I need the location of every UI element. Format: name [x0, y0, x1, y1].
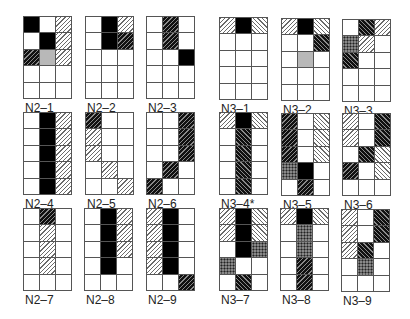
grid-cell-empty	[343, 147, 359, 163]
grid-cell-empty	[56, 275, 72, 291]
grid-cell-light-hatch-forward	[56, 33, 72, 49]
grid-cell-gray	[40, 50, 56, 66]
pattern-panel: N2–9	[146, 208, 196, 307]
grid-cell-empty	[252, 129, 268, 145]
grid-cell-gray	[298, 52, 314, 68]
grid-cell-empty	[117, 258, 133, 274]
grid-cell-dark-hatch-forward	[343, 163, 359, 179]
grid-cell-black	[163, 225, 179, 241]
grid-cell-empty	[343, 180, 359, 196]
grid-cell-light-hatch-back	[252, 225, 268, 241]
grid-cell-empty	[24, 83, 40, 99]
grid-cell-empty	[24, 162, 40, 178]
grid-cell-black	[40, 162, 56, 178]
grid-cell-light-hatch-forward	[56, 146, 72, 162]
grid-cell-empty	[236, 84, 252, 100]
grid-cell-empty	[220, 242, 236, 258]
grid-cell-light-hatch-back	[313, 209, 329, 225]
grid-cell-empty	[375, 86, 391, 102]
grid-cell-empty	[314, 85, 330, 101]
grid-cell-empty	[163, 129, 179, 145]
grid-cell-light-hatch-forward	[220, 113, 236, 129]
grid-cell-light-hatch-forward	[56, 162, 72, 178]
grid-cell-empty	[298, 114, 314, 130]
grid-cell-empty	[102, 113, 118, 129]
pattern-panel: N3–7	[219, 208, 269, 307]
pattern-panel: N2–1	[23, 16, 73, 115]
grid-cell-empty	[374, 276, 390, 292]
grid-cell-empty	[298, 147, 314, 163]
pattern-panel: N2–7	[23, 208, 73, 307]
pattern-grid	[342, 19, 391, 102]
grid-cell-empty	[359, 130, 375, 146]
pattern-grid	[23, 16, 72, 99]
grid-cell-empty	[374, 243, 390, 259]
grid-cell-dotted	[282, 163, 298, 179]
grid-cell-light-hatch-forward	[359, 36, 375, 52]
grid-cell-empty	[282, 180, 298, 196]
grid-cell-empty	[102, 146, 118, 162]
grid-cell-empty	[24, 209, 40, 225]
grid-cell-dark-hatch-back	[374, 210, 390, 226]
pattern-grid	[281, 113, 330, 196]
grid-cell-light-hatch-forward	[343, 130, 359, 146]
grid-cell-empty	[179, 242, 195, 258]
grid-cell-empty	[314, 52, 330, 68]
grid-cell-light-hatch-forward	[56, 179, 72, 195]
grid-cell-empty	[24, 225, 40, 241]
grid-cell-empty	[282, 52, 298, 68]
grid-cell-dark-hatch-forward	[163, 33, 179, 49]
grid-cell-empty	[252, 34, 268, 50]
grid-cell-empty	[163, 275, 179, 291]
grid-cell-black	[101, 209, 117, 225]
grid-cell-dark-hatch-forward	[298, 180, 314, 196]
grid-cell-black	[40, 179, 56, 195]
grid-cell-empty	[179, 225, 195, 241]
pattern-panel: N2–5	[85, 112, 135, 211]
grid-cell-empty	[147, 146, 163, 162]
grid-cell-light-hatch-forward	[102, 162, 118, 178]
grid-cell-empty	[118, 146, 134, 162]
grid-cell-empty	[252, 67, 268, 83]
grid-cell-empty	[24, 129, 40, 145]
grid-cell-empty	[24, 146, 40, 162]
grid-cell-empty	[343, 86, 359, 102]
grid-cell-light-hatch-forward	[86, 129, 102, 145]
grid-cell-light-hatch-forward	[343, 114, 359, 130]
grid-cell-empty	[313, 275, 329, 291]
grid-cell-empty	[343, 20, 359, 36]
grid-cell-light-hatch-forward	[56, 50, 72, 66]
grid-cell-light-hatch-back	[314, 19, 330, 35]
panel-label: N3–7	[219, 293, 269, 307]
grid-cell-empty	[118, 113, 134, 129]
grid-cell-black	[40, 146, 56, 162]
grid-cell-black	[102, 17, 118, 33]
grid-cell-dotted	[297, 225, 313, 241]
grid-cell-empty	[86, 66, 102, 82]
grid-cell-light-hatch-back	[252, 209, 268, 225]
grid-cell-empty	[375, 53, 391, 69]
grid-cell-light-hatch-back	[314, 114, 330, 130]
grid-cell-dotted	[252, 242, 268, 258]
grid-cell-empty	[358, 276, 374, 292]
grid-cell-empty	[56, 258, 72, 274]
pattern-grid	[219, 112, 268, 195]
grid-cell-black	[236, 209, 252, 225]
grid-cell-empty	[85, 225, 101, 241]
grid-cell-black	[101, 258, 117, 274]
grid-cell-empty	[40, 275, 56, 291]
grid-cell-light-hatch-forward	[342, 243, 358, 259]
panel-label: N2–9	[146, 293, 196, 307]
grid-cell-black	[163, 242, 179, 258]
grid-cell-black	[101, 225, 117, 241]
pattern-grid	[146, 16, 195, 99]
grid-cell-black	[40, 129, 56, 145]
grid-cell-dotted	[220, 258, 236, 274]
grid-cell-dark-hatch-forward	[282, 114, 298, 130]
grid-cell-black	[40, 113, 56, 129]
grid-cell-empty	[179, 179, 195, 195]
grid-cell-empty	[163, 50, 179, 66]
grid-cell-light-hatch-back	[252, 18, 268, 34]
grid-cell-empty	[163, 66, 179, 82]
grid-cell-empty	[40, 66, 56, 82]
